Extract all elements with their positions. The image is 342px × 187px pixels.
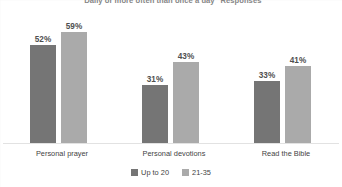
legend-swatch-icon bbox=[131, 169, 138, 176]
chart-legend: Up to 20 21-35 bbox=[0, 168, 342, 177]
legend-item-21-35[interactable]: 21-35 bbox=[182, 168, 211, 177]
x-axis-label-personal-devotions: Personal devotions bbox=[109, 149, 239, 158]
bar-personal-devotions-up-to-20[interactable]: 31% bbox=[142, 85, 168, 143]
bar-personal-prayer-21-35[interactable]: 59% bbox=[61, 32, 87, 143]
bar-read-the-bible-21-35[interactable]: 41% bbox=[285, 66, 311, 143]
x-axis-label-read-the-bible: Read the Bible bbox=[221, 149, 342, 158]
bar-value-label: 41% bbox=[278, 56, 318, 65]
bar-value-label: 43% bbox=[166, 52, 206, 61]
bar-personal-prayer-up-to-20[interactable]: 52% bbox=[30, 45, 56, 143]
plot-area: 52% 59% 31% 43% 33% 41% bbox=[0, 0, 342, 143]
legend-label: Up to 20 bbox=[141, 168, 169, 177]
x-axis-label-personal-prayer: Personal prayer bbox=[0, 149, 127, 158]
legend-swatch-icon bbox=[182, 169, 189, 176]
bar-chart: "Daily or more often than once a day" Re… bbox=[0, 0, 342, 187]
bar-value-label: 52% bbox=[23, 35, 63, 44]
bar-personal-devotions-21-35[interactable]: 43% bbox=[173, 62, 199, 143]
bar-value-label: 59% bbox=[54, 22, 94, 31]
bar-read-the-bible-up-to-20[interactable]: 33% bbox=[254, 81, 280, 143]
legend-item-up-to-20[interactable]: Up to 20 bbox=[131, 168, 169, 177]
bar-value-label: 33% bbox=[247, 71, 287, 80]
axis-baseline bbox=[3, 143, 339, 144]
legend-label: 21-35 bbox=[192, 168, 211, 177]
bar-value-label: 31% bbox=[135, 75, 175, 84]
